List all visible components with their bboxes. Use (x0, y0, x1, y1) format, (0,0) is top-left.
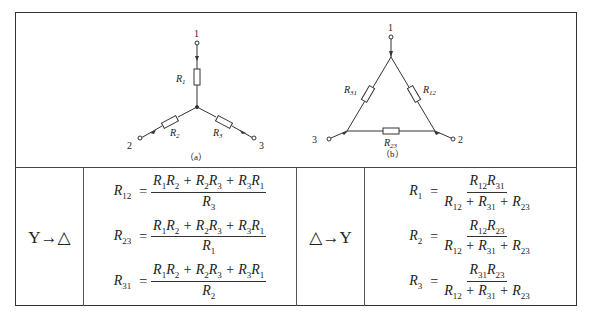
delta-caption: （b） (381, 149, 404, 159)
r12-label: R12 (422, 84, 437, 97)
formula-r1: R1= R12R31R12 + R31 + R23 (409, 173, 532, 212)
formula-r31: R31= R1R2 + R2R3 + R3R1R2 (114, 262, 267, 301)
delta-node-2-label: 2 (458, 134, 463, 145)
delta-node-1-label: 1 (388, 22, 393, 33)
star-caption: （a） (185, 152, 207, 162)
star-node-1-label: 1 (194, 28, 199, 39)
r1-label: R1 (175, 73, 186, 86)
formula-r2: R2= R12R23R12 + R31 + R23 (409, 218, 532, 257)
formula-r12: R12= R1R2 + R2R3 + R3R1R3 (114, 173, 267, 212)
y-to-delta-label: Y→△ (16, 168, 83, 306)
r2-label: R2 (169, 127, 180, 140)
formula-r23: R23= R1R2 + R2R3 + R3R1R1 (114, 218, 267, 257)
star-node-3-label: 3 (259, 140, 264, 151)
r3-label: R3 (212, 127, 223, 140)
delta-node-3-label: 3 (312, 134, 317, 145)
star-network (138, 41, 256, 140)
r31-label: R31 (343, 84, 357, 97)
delta-to-y-label: △→Y (297, 168, 364, 306)
formula-r3: R3= R31R23R12 + R31 + R23 (409, 262, 532, 301)
star-node-2-label: 2 (127, 140, 132, 151)
y-to-delta-formulas: R12= R1R2 + R2R3 + R3R1R3 R23= R1R2 + R2… (84, 170, 296, 304)
delta-to-y-formulas: R1= R12R31R12 + R31 + R23 R2= R12R23R12 … (365, 170, 576, 304)
circuit-diagrams: 1 2 3 R1 R2 R3 （a） 1 2 3 R31 R12 R23 （b） (0, 0, 591, 170)
